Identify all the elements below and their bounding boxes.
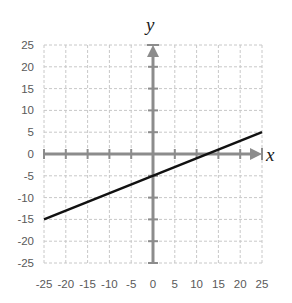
x-tick-label: 25 — [256, 278, 269, 290]
y-tick-label: 15 — [21, 83, 34, 95]
tick-labels: -25-20-15-10-505101520252520151050-5-10-… — [17, 39, 268, 290]
y-tick-label: 5 — [28, 126, 34, 138]
x-tick-label: 5 — [172, 278, 178, 290]
y-tick-label: -10 — [17, 192, 34, 204]
x-tick-label: -20 — [57, 278, 74, 290]
y-tick-label: -25 — [17, 257, 34, 269]
x-tick-label: -15 — [79, 278, 96, 290]
axes — [44, 45, 262, 263]
x-axis-arrow-icon — [250, 148, 262, 160]
x-tick-label: 10 — [190, 278, 203, 290]
y-tick-label: 20 — [21, 61, 34, 73]
y-tick-label: 0 — [28, 148, 34, 160]
y-axis-title: y — [144, 14, 155, 35]
y-tick-label: -5 — [24, 170, 34, 182]
y-tick-label: 10 — [21, 104, 34, 116]
y-tick-label: 25 — [21, 39, 34, 51]
x-tick-label: 15 — [212, 278, 225, 290]
x-tick-label: -5 — [126, 278, 136, 290]
y-tick-label: -20 — [17, 235, 34, 247]
x-tick-label: 20 — [234, 278, 247, 290]
x-tick-label: -25 — [36, 278, 53, 290]
x-axis-title: x — [265, 144, 275, 165]
y-axis-arrow-icon — [147, 45, 159, 57]
y-tick-label: -15 — [17, 213, 34, 225]
x-tick-label: 0 — [150, 278, 156, 290]
x-tick-label: -10 — [101, 278, 118, 290]
coordinate-plane-chart: -25-20-15-10-505101520252520151050-5-10-… — [0, 0, 292, 303]
